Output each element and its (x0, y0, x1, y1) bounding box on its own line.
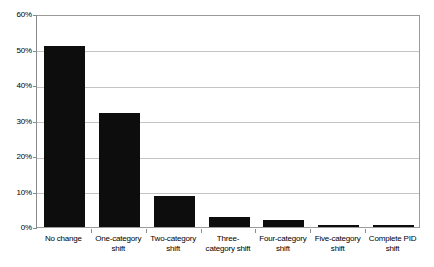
bar-chart: 0%10%20%30%40%50%60% No changeOne-catego… (0, 0, 434, 267)
bar (318, 225, 359, 227)
x-axis-tick-mark (255, 229, 256, 233)
x-axis-tick-mark (146, 229, 147, 233)
bar (263, 220, 304, 227)
y-axis-tick-label: 0% (0, 224, 32, 232)
y-axis-tick-mark (33, 228, 36, 229)
bar (209, 217, 250, 227)
x-axis-category-label-line: category shift (198, 244, 259, 254)
x-axis-category-label-line: Two-category (143, 234, 204, 244)
x-axis-category-label-line: shift (88, 244, 149, 254)
x-axis-tick-mark (365, 229, 366, 233)
x-axis-category-label-line: No change (33, 234, 94, 244)
bar-column (373, 16, 414, 227)
x-axis-category-label: Three-category shift (198, 234, 259, 254)
bar-column (99, 16, 140, 227)
x-axis-category-label: One-categoryshift (88, 234, 149, 254)
y-axis-tick-label: 20% (0, 153, 32, 161)
bar-column (209, 16, 250, 227)
x-axis-category-label: Five-categoryshift (307, 234, 368, 254)
y-axis-tick-label: 50% (0, 47, 32, 55)
x-axis-category-label-line: Three- (198, 234, 259, 244)
x-axis-category-label: No change (33, 234, 94, 244)
y-axis-tick-label: 60% (0, 11, 32, 19)
x-axis-category-label-line: One-category (88, 234, 149, 244)
y-axis-line (36, 15, 37, 229)
x-axis-category-label-line: shift (143, 244, 204, 254)
y-axis-tick-mark (33, 122, 36, 123)
plot-area (36, 15, 420, 228)
bar (44, 46, 85, 227)
y-axis-tick-mark (33, 193, 36, 194)
y-axis-tick-mark (33, 51, 36, 52)
x-axis-tick-mark (201, 229, 202, 233)
x-axis-tick-mark (310, 229, 311, 233)
x-axis-category-label-line: shift (307, 244, 368, 254)
y-axis-tick-mark (33, 15, 36, 16)
y-axis-tick-mark (33, 157, 36, 158)
y-axis-tick-label: 30% (0, 118, 32, 126)
bar-column (263, 16, 304, 227)
x-axis-category-label-line: Five-category (307, 234, 368, 244)
bar-column (318, 16, 359, 227)
x-axis-category-label: Two-categoryshift (143, 234, 204, 254)
y-axis-tick-label: 10% (0, 189, 32, 197)
x-axis-tick-mark (91, 229, 92, 233)
x-axis-category-label-line: shift (362, 244, 423, 254)
bar (154, 196, 195, 227)
x-axis-category-label-line: Complete PID (362, 234, 423, 244)
bar-column (154, 16, 195, 227)
bar (99, 113, 140, 227)
x-axis-category-label: Four-categoryshift (252, 234, 313, 254)
x-axis-category-label-line: Four-category (252, 234, 313, 244)
y-axis-tick-mark (33, 86, 36, 87)
y-axis-tick-label: 40% (0, 82, 32, 90)
bar (373, 225, 414, 227)
bar-column (44, 16, 85, 227)
x-axis-category-label: Complete PIDshift (362, 234, 423, 254)
x-axis-category-label-line: shift (252, 244, 313, 254)
